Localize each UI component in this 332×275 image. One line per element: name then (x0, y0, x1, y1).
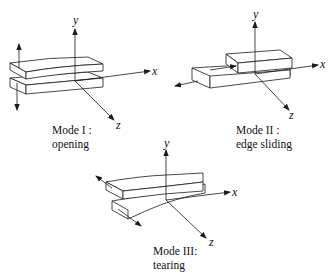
mode-2-x-label: x (319, 57, 326, 71)
mode-3-subtitle: tearing (153, 259, 185, 272)
mode-1-z-label: z (115, 118, 121, 132)
mode-3-x-label: x (231, 185, 238, 199)
mode-3-panel: y x z Mode III: tearing (96, 136, 238, 272)
mode-1-x-label: x (151, 64, 158, 78)
mode-1-y-label: y (72, 13, 79, 27)
fracture-modes-diagram: y x z Mode I : opening y x z Mode II : e… (0, 0, 332, 275)
mode-2-y-label: y (252, 7, 259, 21)
mode-1-panel: y x z Mode I : opening (10, 13, 158, 151)
mode-2-z-label: z (288, 108, 294, 122)
mode-1-subtitle: opening (52, 138, 89, 151)
mode-1-title: Mode I : (52, 124, 92, 136)
mode-2-panel: y x z Mode II : edge sliding (175, 7, 326, 151)
mode-3-title: Mode III: (153, 245, 197, 257)
mode-2-slide-arrow-back (175, 81, 198, 86)
mode-3-z-axis (166, 200, 206, 238)
mode-3-z-label: z (208, 235, 214, 249)
mode-2-subtitle: edge sliding (236, 138, 292, 151)
mode-2-title: Mode II : (236, 124, 279, 136)
mode-3-y-label: y (163, 136, 170, 150)
